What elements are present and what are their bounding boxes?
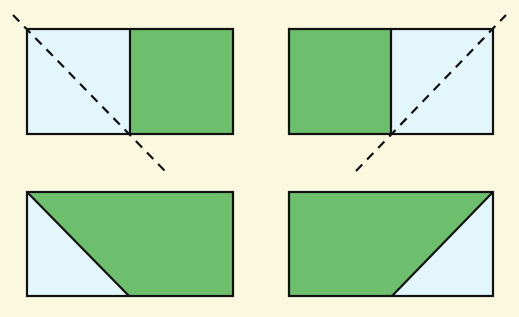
figure-top-left [13, 15, 233, 171]
region-right-half [130, 29, 233, 134]
figure-bottom-left [27, 192, 233, 296]
figures-layer [13, 15, 506, 296]
figure-bottom-right [289, 192, 493, 296]
figure-top-right [289, 15, 506, 171]
region-left-half [289, 29, 391, 134]
diagram-canvas [0, 0, 519, 317]
